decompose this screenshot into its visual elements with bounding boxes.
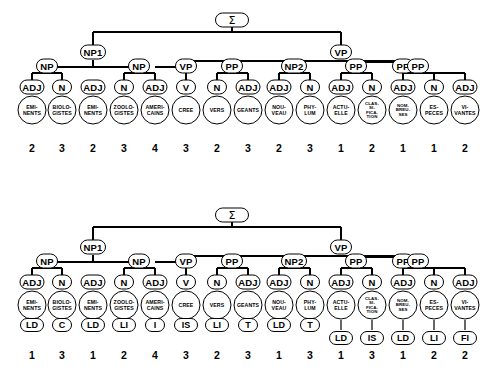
top-pos-13-n[interactable]: N xyxy=(424,80,444,95)
bot-word-4[interactable]: AMERI- CAINS xyxy=(141,291,170,320)
bot-word-5[interactable]: CREE xyxy=(172,291,201,320)
top-word-1[interactable]: BIOLO- GISTES xyxy=(48,96,77,125)
bot-code-3-li[interactable]: LI xyxy=(112,318,136,332)
bot-pos-0-adj[interactable]: ADJ xyxy=(20,275,45,290)
bot-word-13[interactable]: ES- PECES xyxy=(420,291,449,320)
top-word-2[interactable]: EMI- NENTS xyxy=(79,96,108,125)
bot-count-8: 1 xyxy=(276,349,282,361)
bot-code-9-t[interactable]: T xyxy=(300,318,320,332)
top-word-14[interactable]: VI- VANTES xyxy=(451,96,480,125)
top-l2-pp-3[interactable]: PP xyxy=(221,59,243,74)
bot-root-sigma: Σ xyxy=(215,208,249,223)
bot-code-14-fi[interactable]: FI xyxy=(453,331,477,345)
bot-pos-14-adj[interactable]: ADJ xyxy=(453,275,478,290)
bot-word-10[interactable]: ACTU- ELLE xyxy=(327,291,356,320)
bot-pos-5-v[interactable]: V xyxy=(176,275,196,290)
bot-word-12[interactable]: NOM- BREU- SES xyxy=(389,291,418,320)
bot-pos-8-adj[interactable]: ADJ xyxy=(267,275,292,290)
bot-pos-2-adj[interactable]: ADJ xyxy=(81,275,106,290)
bot-code-8-ld[interactable]: LD xyxy=(267,318,291,332)
bot-code-1-c[interactable]: C xyxy=(52,318,72,332)
top-word-12[interactable]: NOM- BREU- SES xyxy=(389,96,418,125)
top-pos-9-n[interactable]: N xyxy=(300,80,320,95)
bot-code-12-ld[interactable]: LD xyxy=(391,331,415,345)
top-l3-pp-0[interactable]: PP xyxy=(345,59,367,74)
top-pos-0-adj[interactable]: ADJ xyxy=(20,80,45,95)
bot-l2-np-1[interactable]: NP xyxy=(128,254,150,269)
bot-l3-pp-0[interactable]: PP xyxy=(345,254,367,269)
bot-l2-np2-4[interactable]: NP2 xyxy=(281,254,307,269)
top-pos-7-adj[interactable]: ADJ xyxy=(236,80,261,95)
bot-word-8[interactable]: NOU- VEAU xyxy=(265,291,294,320)
upper-parse-tree: ΣNP1VPNPNPVPPPNP2PPPPPPADJNADJNADJVNADJA… xyxy=(0,0,485,195)
bot-pos-7-adj[interactable]: ADJ xyxy=(236,275,261,290)
top-pos-1-n[interactable]: N xyxy=(52,80,72,95)
top-count-7: 3 xyxy=(245,142,251,154)
bot-code-10-ld[interactable]: LD xyxy=(329,331,353,345)
top-word-4[interactable]: AMERI- CAINS xyxy=(141,96,170,125)
bot-code-13-li[interactable]: LI xyxy=(422,331,446,345)
bot-word-14[interactable]: VI- VANTES xyxy=(451,291,480,320)
top-word-8[interactable]: NOU- VEAU xyxy=(265,96,294,125)
bot-pos-13-n[interactable]: N xyxy=(424,275,444,290)
top-word-5[interactable]: CREE xyxy=(172,96,201,125)
top-l2-vp-2[interactable]: VP xyxy=(175,59,197,74)
bot-word-3[interactable]: ZOOLO- GISTES xyxy=(110,291,139,320)
top-word-0[interactable]: EMI- NENTS xyxy=(18,96,47,125)
bot-l2-vp-2[interactable]: VP xyxy=(175,254,197,269)
bot-l3-pp-1[interactable]: PP xyxy=(407,254,429,269)
top-pos-14-adj[interactable]: ADJ xyxy=(453,80,478,95)
bot-l1-vp-1[interactable]: VP xyxy=(330,240,352,255)
top-word-7[interactable]: GEANTS xyxy=(234,96,263,125)
top-pos-8-adj[interactable]: ADJ xyxy=(267,80,292,95)
bot-pos-9-n[interactable]: N xyxy=(300,275,320,290)
bot-code-6-li[interactable]: LI xyxy=(205,318,229,332)
bot-pos-4-adj[interactable]: ADJ xyxy=(143,275,168,290)
top-l2-np2-4[interactable]: NP2 xyxy=(281,59,307,74)
top-pos-5-v[interactable]: V xyxy=(176,80,196,95)
bot-word-1[interactable]: BIOLO- GISTES xyxy=(48,291,77,320)
top-pos-2-adj[interactable]: ADJ xyxy=(81,80,106,95)
bot-pos-6-n[interactable]: N xyxy=(207,275,227,290)
bot-l2-np-0[interactable]: NP xyxy=(36,254,58,269)
top-root-sigma: Σ xyxy=(215,13,249,28)
bot-pos-11-n[interactable]: N xyxy=(362,275,382,290)
bot-word-6[interactable]: VERS xyxy=(203,291,232,320)
top-count-4: 4 xyxy=(152,142,158,154)
top-pos-4-adj[interactable]: ADJ xyxy=(143,80,168,95)
bot-word-11[interactable]: CLAS- SI- FICA- TION xyxy=(358,291,387,320)
top-l1-vp-1[interactable]: VP xyxy=(330,45,352,60)
bot-count-14: 2 xyxy=(462,349,468,361)
top-word-3[interactable]: ZOOLO- GISTES xyxy=(110,96,139,125)
bot-code-2-ld[interactable]: LD xyxy=(81,318,105,332)
top-l3-pp-1[interactable]: PP xyxy=(407,59,429,74)
bot-pos-1-n[interactable]: N xyxy=(52,275,72,290)
top-pos-3-n[interactable]: N xyxy=(114,80,134,95)
bot-pos-10-adj[interactable]: ADJ xyxy=(329,275,354,290)
top-l1-np1-0[interactable]: NP1 xyxy=(80,45,106,60)
bot-l1-np1-0[interactable]: NP1 xyxy=(80,240,106,255)
bot-pos-12-adj[interactable]: ADJ xyxy=(391,275,416,290)
bot-l2-pp-3[interactable]: PP xyxy=(221,254,243,269)
bot-code-5-is[interactable]: IS xyxy=(174,318,198,332)
top-l2-np-1[interactable]: NP xyxy=(128,59,150,74)
top-word-9[interactable]: PHY- LUM xyxy=(296,96,325,125)
top-pos-11-n[interactable]: N xyxy=(362,80,382,95)
bot-code-11-is[interactable]: IS xyxy=(360,331,384,345)
bot-code-0-ld[interactable]: LD xyxy=(20,318,44,332)
bot-word-2[interactable]: EMI- NENTS xyxy=(79,291,108,320)
bot-pos-3-n[interactable]: N xyxy=(114,275,134,290)
top-pos-6-n[interactable]: N xyxy=(207,80,227,95)
bot-code-7-t[interactable]: T xyxy=(238,318,258,332)
top-word-6[interactable]: VERS xyxy=(203,96,232,125)
top-pos-12-adj[interactable]: ADJ xyxy=(391,80,416,95)
top-word-13[interactable]: ES- PECES xyxy=(420,96,449,125)
bot-code-4-i[interactable]: I xyxy=(145,318,165,332)
top-l2-np-0[interactable]: NP xyxy=(36,59,58,74)
top-word-10[interactable]: ACTU- ELLE xyxy=(327,96,356,125)
bot-word-9[interactable]: PHY- LUM xyxy=(296,291,325,320)
bot-word-7[interactable]: GEANTS xyxy=(234,291,263,320)
bot-word-0[interactable]: EMI- NENTS xyxy=(18,291,47,320)
top-word-11[interactable]: CLAS- SI- FICA- TION xyxy=(358,96,387,125)
top-pos-10-adj[interactable]: ADJ xyxy=(329,80,354,95)
